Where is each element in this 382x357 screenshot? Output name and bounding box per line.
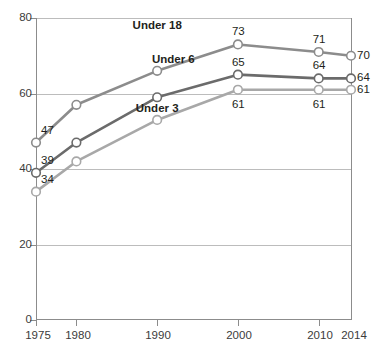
data-point-label: 61 xyxy=(313,99,326,111)
line-chart: 80 60 40 20 0 1975 1980 1990 2000 2010 2… xyxy=(0,0,382,357)
data-point-marker xyxy=(314,74,323,83)
series-annotation: Under 6 xyxy=(152,54,195,66)
data-point-marker xyxy=(32,138,41,147)
data-point-marker xyxy=(314,85,323,94)
data-point-label: 47 xyxy=(41,125,54,137)
data-point-marker xyxy=(234,40,243,49)
series-end-value-label: 61 xyxy=(357,84,370,96)
data-point-marker xyxy=(153,93,162,102)
data-point-marker xyxy=(72,138,81,147)
data-point-marker xyxy=(32,168,41,177)
data-point-marker xyxy=(234,70,243,79)
data-point-marker xyxy=(72,157,81,166)
data-point-marker xyxy=(153,116,162,125)
series-annotation: Under 3 xyxy=(136,103,179,115)
data-point-marker xyxy=(347,74,356,83)
data-point-marker xyxy=(347,51,356,60)
data-point-label: 39 xyxy=(41,155,54,167)
series-end-value-label: 70 xyxy=(357,50,370,62)
series-annotation: Under 18 xyxy=(133,20,182,32)
data-point-marker xyxy=(314,48,323,57)
data-point-marker xyxy=(32,187,41,196)
data-point-marker xyxy=(347,85,356,94)
series-line xyxy=(36,90,351,192)
data-point-label: 71 xyxy=(313,34,326,46)
data-point-marker xyxy=(153,67,162,76)
data-point-label: 61 xyxy=(232,99,245,111)
data-point-label: 65 xyxy=(232,57,245,69)
data-point-label: 64 xyxy=(313,60,326,72)
data-point-label: 73 xyxy=(232,26,245,38)
data-point-marker xyxy=(234,85,243,94)
data-point-label: 34 xyxy=(41,174,54,186)
data-point-marker xyxy=(72,101,81,110)
